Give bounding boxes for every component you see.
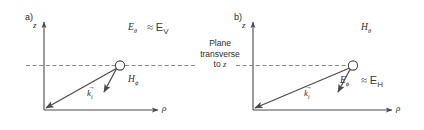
panel-a-k-vector-label: ki	[87, 88, 93, 100]
panel-b-equivalent-subscript: H	[377, 80, 383, 89]
panel-a-z-axis-label: z	[33, 20, 37, 30]
transverse-plane-note: Plane transverse to z	[182, 38, 258, 70]
panel-b-out-of-plane-circle	[348, 61, 357, 70]
physics-diagram-figure: a) z ρ Eθ ≈ EV Hϕ → ki Plane transverse …	[0, 0, 424, 130]
panel-b-k-vector-label: ki	[304, 88, 310, 100]
panel-a-label: a)	[25, 12, 33, 22]
panel-b-approx-sign: ≈	[361, 74, 367, 86]
panel-a-h-phi-subscript: ϕ	[135, 79, 138, 86]
panel-a-e-theta-subscript: θ	[134, 27, 137, 34]
panel-b-e-phi-subscript: ϕ	[346, 80, 349, 87]
panel-a-approx-sign: ≈	[147, 21, 153, 33]
transverse-plane-note-line3-var: z	[223, 59, 226, 69]
panel-b-equivalence-label: ≈ EH	[361, 74, 383, 89]
transverse-plane-note-line1: Plane	[182, 38, 258, 49]
panel-a-k-subscript: i	[91, 94, 93, 100]
panel-b-z-axis-label: z	[242, 20, 246, 30]
panel-b-h-theta-symbol: H	[361, 22, 368, 32]
panel-b-k-subscript: i	[308, 94, 310, 100]
panel-b-label: b)	[234, 12, 242, 22]
panel-b-rho-axis-label: ρ	[396, 103, 400, 113]
panel-a-out-of-plane-circle	[115, 61, 124, 70]
panel-b-graphics	[236, 22, 392, 110]
panel-a-e-theta-label: Eθ	[128, 22, 137, 34]
panel-a-wave-vector-arrow	[46, 67, 119, 108]
panel-a-graphics	[26, 22, 196, 110]
panel-a-equivalent-subscript: V	[163, 27, 169, 36]
panel-a-h-phi-symbol: H	[128, 74, 135, 84]
panel-b-e-phi-label: Eϕ	[340, 75, 349, 87]
transverse-plane-note-line3-prefix: to	[214, 59, 223, 69]
panel-a-equivalence-label: ≈ EV	[147, 21, 169, 36]
panel-a-h-phi-label: Hϕ	[128, 74, 138, 86]
panel-b-equivalent-field: EH	[370, 74, 384, 86]
panel-b-h-theta-subscript: θ	[368, 27, 371, 34]
panel-a-rho-axis-label: ρ	[162, 103, 166, 113]
transverse-plane-note-line3: to z	[182, 59, 258, 70]
transverse-plane-note-line2: transverse	[182, 49, 258, 60]
panel-a-equivalent-field: EV	[156, 21, 169, 33]
panel-b-h-theta-label: Hθ	[361, 22, 371, 34]
